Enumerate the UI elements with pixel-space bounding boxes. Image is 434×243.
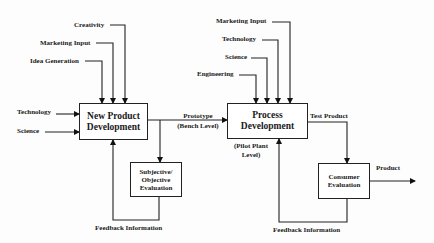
node-sublabel-pilot-plant: (Pilot Plant xyxy=(229,142,273,150)
node-label: Consumer xyxy=(328,173,361,181)
input-label-creativity: Creativity xyxy=(74,21,104,29)
node-label: Development xyxy=(241,121,294,132)
node-consumer-evaluation: ConsumerEvaluation xyxy=(318,163,370,199)
edge-label-test-product: Test Product xyxy=(310,112,348,120)
input-label-technology: Technology xyxy=(222,35,256,43)
node-label: Evaluation xyxy=(139,184,172,192)
node-label: New Product xyxy=(87,111,140,122)
input-label-science: Science xyxy=(225,53,247,61)
node-process-development: ProcessDevelopment xyxy=(227,103,308,139)
edge-label-feedback-information-right: Feedback Information xyxy=(273,226,340,234)
edge-label-feedback-information-left: Feedback Information xyxy=(95,224,162,232)
edge-label-prototype: Prototype xyxy=(170,112,226,120)
edge-label-bench-level: (Bench Level) xyxy=(170,122,226,130)
node-label: Objective xyxy=(139,176,172,184)
node-sublabel-level: Level) xyxy=(229,151,273,159)
edge-label-line: Prototype xyxy=(170,112,226,120)
node-label: Development xyxy=(87,122,140,133)
node-new-product-development: New ProductDevelopment xyxy=(79,103,148,140)
input-label-engineering: Engineering xyxy=(197,70,234,78)
node-label: Subjective/ xyxy=(139,168,172,176)
input-label-marketing-input: Marketing Input xyxy=(40,39,90,47)
input-label-idea-generation: Idea Generation xyxy=(30,57,79,65)
input-label-technology: Technology xyxy=(17,108,51,116)
input-label-science: Science xyxy=(17,127,39,135)
input-label-marketing-input: Marketing Input xyxy=(216,17,266,25)
node-label: Evaluation xyxy=(328,181,361,189)
node-subjective-objective-evaluation: Subjective/ObjectiveEvaluation xyxy=(130,162,182,197)
node-label: Process xyxy=(241,110,294,121)
diagram-canvas: Creativity Marketing Input Idea Generati… xyxy=(0,0,434,243)
edge-label-product: Product xyxy=(376,164,400,172)
